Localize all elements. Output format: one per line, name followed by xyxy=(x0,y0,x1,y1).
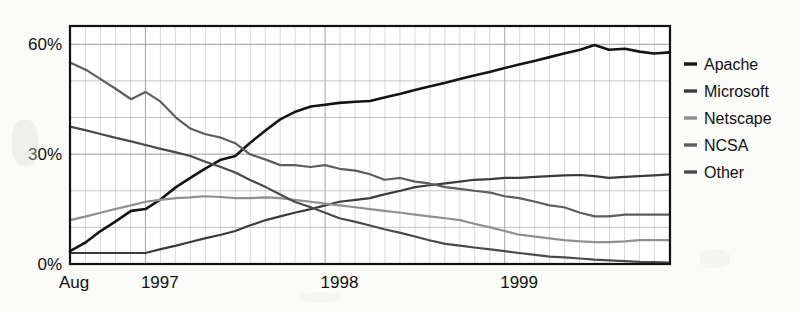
legend-label-other: Other xyxy=(704,164,745,181)
x-axis-labels: Aug1996199719981999 xyxy=(0,273,538,292)
x-axis-tick-label: 1998 xyxy=(321,273,359,292)
chart-legend: ApacheMicrosoftNetscapeNCSAOther xyxy=(684,56,772,181)
grid-vertical-minor xyxy=(71,26,670,264)
legend-label-apache: Apache xyxy=(704,56,758,73)
legend-label-ncsa: NCSA xyxy=(704,137,749,154)
x-axis-tick-label: Aug xyxy=(59,273,89,292)
x-axis-tick-label: 1999 xyxy=(500,273,538,292)
legend-label-netscape: Netscape xyxy=(704,110,772,127)
web-server-market-share-chart: 0%30%60% Aug1996199719981999 ApacheMicro… xyxy=(0,0,800,311)
y-axis-labels: 0%30%60% xyxy=(28,35,62,274)
chart-canvas: 0%30%60% Aug1996199719981999 ApacheMicro… xyxy=(0,0,800,311)
legend-label-microsoft: Microsoft xyxy=(704,83,769,100)
x-axis-tick-label: 1997 xyxy=(141,273,179,292)
y-axis-tick-label: 30% xyxy=(28,145,62,164)
y-axis-tick-label: 60% xyxy=(28,35,62,54)
y-axis-tick-label: 0% xyxy=(37,255,62,274)
